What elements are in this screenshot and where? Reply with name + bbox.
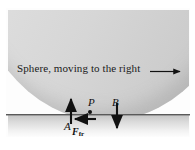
friction-force-symbol: F (72, 126, 79, 137)
margin-right (190, 0, 195, 150)
label-point-p: P (88, 96, 95, 108)
figure-caption: Sphere, moving to the right (17, 62, 140, 74)
margin-bottom (0, 137, 195, 150)
label-point-b: B (112, 96, 119, 108)
arrows-overlay (0, 0, 195, 150)
label-point-a: A (64, 120, 71, 132)
margin-left (0, 0, 6, 150)
margin-top (0, 0, 195, 8)
point-p-marker (88, 110, 92, 114)
physics-figure-sphere-rolling: Sphere, moving to the right A P B Ffr (0, 0, 195, 150)
